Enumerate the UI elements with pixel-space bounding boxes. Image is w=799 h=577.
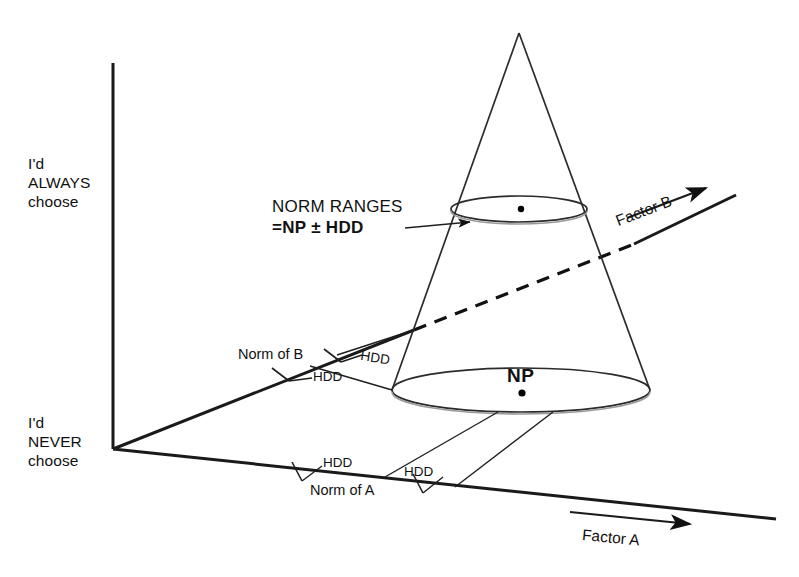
never-choose-line3: choose	[28, 452, 82, 471]
norm-ranges-callout-arrow	[405, 222, 470, 228]
b-axis-tick-lower	[272, 368, 289, 381]
never-choose-label: I'd NEVER choose	[28, 414, 82, 471]
always-choose-label: I'd ALWAYS choose	[28, 155, 90, 212]
always-choose-line2: ALWAYS	[28, 174, 90, 193]
never-choose-line2: NEVER	[28, 433, 82, 452]
norm-ranges-title: NORM RANGES	[272, 197, 403, 218]
norm-of-b-label: Norm of B	[238, 346, 303, 364]
a-axis-tick-left	[292, 462, 302, 481]
b-axis-tick-upper	[324, 349, 341, 362]
hdd-label-a-right: HDD	[404, 464, 433, 480]
never-choose-line1: I'd	[28, 414, 82, 433]
diagram-svg	[0, 0, 799, 577]
hdd-label-b-lower: HDD	[313, 369, 342, 385]
always-choose-line1: I'd	[28, 155, 90, 174]
a-projection-line-right	[455, 412, 553, 487]
factor-a-direction-arrow	[570, 512, 690, 524]
hdd-label-a-left: HDD	[323, 455, 352, 471]
norm-ranges-formula: =NP ± HDD	[272, 218, 403, 239]
norm-of-a-label: Norm of A	[310, 482, 374, 500]
always-choose-line3: choose	[28, 193, 90, 212]
norm-ranges-callout: NORM RANGES =NP ± HDD	[272, 197, 403, 238]
factor-a-axis-line	[113, 449, 776, 519]
norm-range-center-dot	[518, 206, 524, 212]
cone-left-edge	[392, 33, 519, 390]
np-label: NP	[507, 364, 534, 387]
diagram-canvas: I'd ALWAYS choose I'd NEVER choose NORM …	[0, 0, 799, 577]
np-center-dot	[518, 389, 525, 396]
